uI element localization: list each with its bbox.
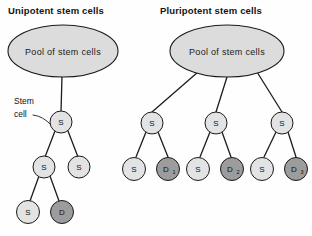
cell-label: S [149,119,155,128]
cell-label: S [58,118,64,127]
node-u-d1: D [51,201,74,224]
edges-unipotent [30,76,78,201]
edge-s0-to-s2 [68,131,78,157]
edge-pool-to-s-mid [216,77,227,112]
node-u-s2: S [68,156,90,178]
cell-label-subscript: 2 [237,169,240,175]
callout-stem-cell: Stem cell [14,96,51,125]
panel-title-pluripotent: Pluripotent stem cells [160,5,262,16]
pool-pluripotent: Pool of stem cells [170,25,284,77]
node-u-s3: S [17,201,40,224]
pool-unipotent: Pool of stem cells [8,25,118,77]
node-u-s1: S [33,156,55,178]
panel-pluripotent: Pluripotent stem cells Pool of stem cell… [123,5,308,181]
edge-pool-to-s-left [152,72,198,112]
edge-s1-to-d1 [50,176,59,201]
panel-unipotent: Unipotent stem cells Pool of stem cells … [8,5,118,224]
callout-pointer-line [33,115,51,125]
edge-s-right-to-d3 [288,132,296,157]
edge-s0-to-s1 [45,131,55,157]
cell-label: S [195,165,201,174]
callout-line-1: Stem [14,96,34,106]
pool-label-pluripotent: Pool of stem cells [189,47,265,57]
panel-title-unipotent: Unipotent stem cells [8,5,104,16]
cell-label: D [163,165,169,174]
diagram-canvas: Unipotent stem cells Pool of stem cells … [0,0,312,236]
node-p-s3: S [251,158,274,181]
edge-s1-to-s3 [30,176,39,201]
callout-line-2: cell [14,109,27,119]
node-p-d1: D 1 [157,158,180,181]
node-p-s-mid: S [205,112,227,134]
pool-label-unipotent: Pool of stem cells [25,47,101,57]
node-p-s1: S [123,158,146,181]
node-p-d3: D 3 [285,158,308,181]
node-u-s0: S [50,111,72,133]
edge-pool-to-s0 [61,76,62,112]
cell-label-subscript: 3 [301,169,304,175]
node-p-s-right: S [271,112,293,134]
cell-label: S [76,163,82,172]
cell-label: S [25,208,31,217]
cell-label: D [291,165,297,174]
cell-label-subscript: 1 [173,169,176,175]
cell-label: D [227,165,233,174]
node-p-d2: D 2 [221,158,244,181]
cell-label: S [259,165,265,174]
edge-s-mid-to-d2 [222,132,231,157]
cell-label: S [213,119,219,128]
edge-s-right-to-s3 [264,132,276,157]
edge-s-mid-to-s2 [200,132,210,157]
cell-label: S [41,163,47,172]
edge-pool-to-s-right [257,72,282,112]
cell-label: S [279,119,285,128]
node-p-s2: S [187,158,210,181]
node-p-s-left: S [141,112,163,134]
cell-label: S [131,165,137,174]
edge-s-left-to-d1 [158,132,168,157]
stem-cell-diagram: Unipotent stem cells Pool of stem cells … [0,0,312,236]
cell-label: D [59,208,65,217]
edge-s-left-to-s1 [136,132,146,157]
